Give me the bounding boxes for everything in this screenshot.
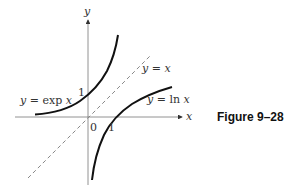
x-tick-label: 1 (108, 121, 115, 134)
identity-line-label: y = x (141, 62, 171, 75)
x-axis-label: x (186, 110, 193, 123)
ln-curve-label: y = ln x (146, 93, 191, 106)
figure-caption: Figure 9–28 (217, 110, 284, 124)
y-axis-label: y (83, 5, 91, 18)
y-tick-label: 1 (78, 86, 85, 99)
graph-canvas: y x 0 1 1 y = exp x y = ln x y = x (0, 0, 293, 189)
origin-label: 0 (90, 121, 97, 134)
exp-curve-label: y = exp x (19, 94, 73, 107)
